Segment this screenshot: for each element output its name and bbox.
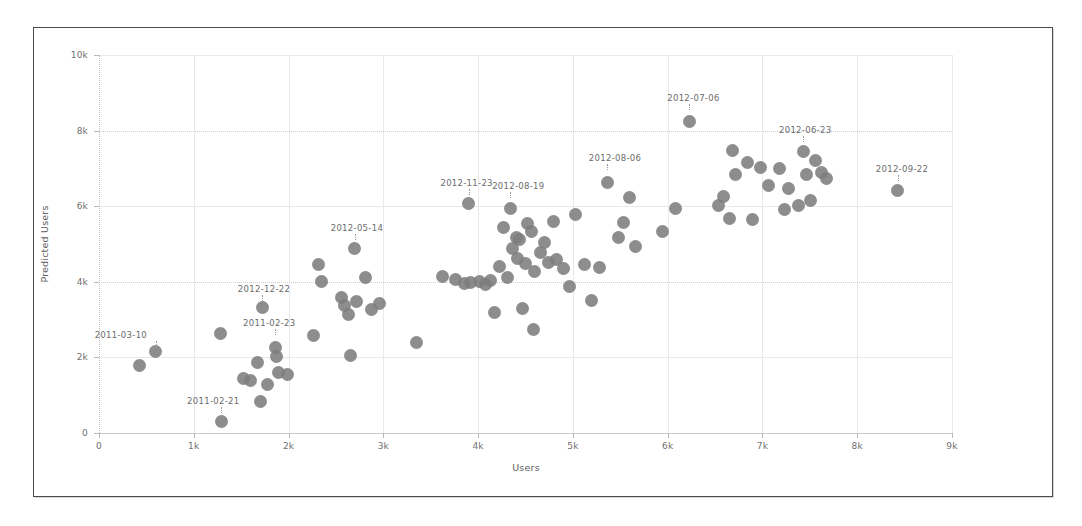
x-tick-label: 2k	[283, 441, 294, 451]
data-point[interactable]	[484, 274, 497, 287]
data-point[interactable]	[436, 270, 449, 283]
data-point[interactable]	[723, 212, 736, 225]
x-tick-label: 5k	[567, 441, 578, 451]
data-point-label: 2012-09-22	[876, 164, 928, 174]
data-point[interactable]	[557, 262, 570, 275]
data-point[interactable]	[281, 368, 294, 381]
plot-area	[99, 55, 952, 433]
gridline-vertical	[194, 55, 195, 433]
x-tick-mark	[194, 433, 195, 438]
data-point[interactable]	[359, 271, 372, 284]
y-tick-mark	[94, 282, 99, 283]
data-point[interactable]	[762, 179, 775, 192]
data-point[interactable]	[501, 271, 514, 284]
label-connector	[275, 329, 276, 335]
y-tick-label: 2k	[77, 352, 88, 362]
data-point[interactable]	[410, 336, 423, 349]
data-point[interactable]	[629, 240, 642, 253]
data-point[interactable]	[601, 176, 614, 189]
x-tick-mark	[383, 433, 384, 438]
y-tick-mark	[94, 357, 99, 358]
data-point[interactable]	[215, 415, 228, 428]
label-connector	[355, 234, 356, 240]
data-point[interactable]	[726, 144, 739, 157]
data-point[interactable]	[612, 231, 625, 244]
x-tick-label: 6k	[662, 441, 673, 451]
data-point[interactable]	[244, 374, 257, 387]
x-tick-label: 4k	[472, 441, 483, 451]
y-tick-label: 8k	[77, 126, 88, 136]
y-tick-label: 4k	[77, 277, 88, 287]
x-tick-mark	[952, 433, 953, 438]
data-point[interactable]	[563, 280, 576, 293]
label-connector	[221, 407, 222, 413]
data-point-label: 2012-07-06	[667, 93, 719, 103]
x-tick-mark	[99, 433, 100, 438]
x-tick-label: 7k	[757, 441, 768, 451]
x-tick-label: 1k	[188, 441, 199, 451]
data-point[interactable]	[778, 203, 791, 216]
data-point-label: 2011-03-10	[95, 330, 147, 340]
y-tick-mark	[94, 131, 99, 132]
data-point[interactable]	[251, 356, 264, 369]
label-connector	[469, 189, 470, 195]
gridline-vertical	[573, 55, 574, 433]
data-point[interactable]	[792, 199, 805, 212]
gridline-horizontal	[99, 357, 952, 358]
x-tick-mark	[668, 433, 669, 438]
gridline-vertical	[383, 55, 384, 433]
label-connector	[689, 104, 690, 110]
data-point[interactable]	[741, 156, 754, 169]
data-point-label: 2012-05-14	[331, 223, 383, 233]
data-point[interactable]	[683, 115, 696, 128]
x-tick-mark	[478, 433, 479, 438]
label-connector	[803, 136, 804, 142]
data-point[interactable]	[307, 329, 320, 342]
data-point-label: 2012-06-23	[779, 125, 831, 135]
data-point-label: 2012-12-22	[238, 284, 290, 294]
data-point-label: 2012-08-06	[589, 153, 641, 163]
data-point[interactable]	[350, 295, 363, 308]
data-point[interactable]	[270, 350, 283, 363]
data-point[interactable]	[254, 395, 267, 408]
data-point-label: 2011-02-23	[243, 318, 295, 328]
gridline-vertical	[762, 55, 763, 433]
data-point-label: 2012-08-19	[492, 181, 544, 191]
data-point[interactable]	[797, 145, 810, 158]
data-point[interactable]	[527, 323, 540, 336]
gridline-vertical	[478, 55, 479, 433]
data-point[interactable]	[256, 301, 269, 314]
data-point[interactable]	[809, 154, 822, 167]
x-tick-label: 0	[96, 441, 102, 451]
data-point[interactable]	[669, 202, 682, 215]
data-point[interactable]	[342, 308, 355, 321]
data-point[interactable]	[782, 182, 795, 195]
label-connector	[156, 341, 157, 347]
x-axis-line	[99, 433, 952, 434]
x-tick-mark	[289, 433, 290, 438]
data-point[interactable]	[344, 349, 357, 362]
gridline-horizontal	[99, 55, 952, 56]
data-point[interactable]	[525, 225, 538, 238]
data-point[interactable]	[538, 236, 551, 249]
x-tick-mark	[573, 433, 574, 438]
data-point[interactable]	[617, 216, 630, 229]
data-point[interactable]	[773, 162, 786, 175]
data-point[interactable]	[717, 190, 730, 203]
x-tick-label: 3k	[378, 441, 389, 451]
data-point[interactable]	[578, 258, 591, 271]
data-point-label: 2011-02-21	[187, 396, 239, 406]
gridline-horizontal	[99, 282, 952, 283]
label-connector	[510, 192, 511, 198]
scatter-chart: 02k4k6k8k10k 01k2k3k4k5k6k7k8k9k Users P…	[0, 0, 1082, 526]
y-tick-label: 0	[82, 428, 88, 438]
x-tick-label: 9k	[946, 441, 957, 451]
x-axis-title: Users	[512, 462, 540, 473]
y-tick-mark	[94, 206, 99, 207]
data-point[interactable]	[312, 258, 325, 271]
data-point[interactable]	[488, 306, 501, 319]
gridline-vertical	[857, 55, 858, 433]
data-point-label: 2012-11-23	[440, 178, 492, 188]
gridline-horizontal	[99, 206, 952, 207]
gridline-vertical	[952, 55, 953, 433]
